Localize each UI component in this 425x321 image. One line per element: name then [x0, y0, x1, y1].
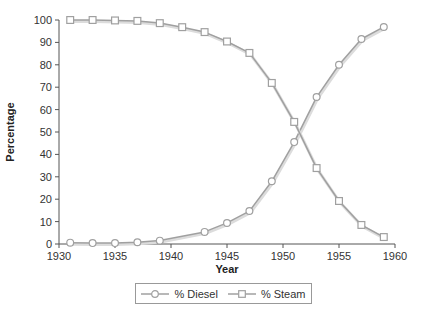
data-point [291, 119, 298, 126]
x-tick-label: 1950 [271, 250, 295, 262]
data-point [380, 24, 387, 31]
data-point [336, 61, 343, 68]
data-point [224, 220, 231, 227]
y-tick-label: 0 [46, 238, 52, 250]
data-point [156, 237, 163, 244]
y-tick-label: 10 [40, 216, 52, 228]
y-tick-label: 20 [40, 193, 52, 205]
data-point [291, 139, 298, 146]
series-diesel [67, 24, 387, 247]
y-tick-label: 80 [40, 59, 52, 71]
x-axis: 1930193519401945195019551960 [47, 244, 407, 262]
y-tick-label: 30 [40, 171, 52, 183]
data-point [89, 240, 96, 247]
y-tick-label: 90 [40, 36, 52, 48]
data-point [134, 17, 141, 24]
y-axis: 0102030405060708090100 [34, 14, 59, 250]
data-point [156, 20, 163, 27]
data-point [313, 94, 320, 101]
y-tick-label: 50 [40, 126, 52, 138]
series-steam [67, 17, 387, 241]
x-tick-label: 1955 [327, 250, 351, 262]
x-tick-label: 1960 [383, 250, 407, 262]
legend-item-steam: % Steam [228, 288, 306, 300]
data-point [67, 239, 74, 246]
data-point [313, 165, 320, 172]
data-point [112, 17, 119, 24]
data-point [224, 38, 231, 45]
data-point [112, 240, 119, 247]
data-point [268, 178, 275, 185]
x-tick-label: 1935 [103, 250, 127, 262]
data-point [336, 198, 343, 205]
data-point [201, 29, 208, 36]
x-tick-label: 1930 [47, 250, 71, 262]
data-point [201, 229, 208, 236]
data-point [380, 234, 387, 241]
data-point [268, 80, 275, 87]
x-axis-title: Year [215, 263, 239, 275]
data-point [179, 24, 186, 31]
square-marker-icon [228, 289, 256, 299]
x-tick-label: 1940 [159, 250, 183, 262]
data-point [358, 36, 365, 43]
legend: % Diesel % Steam [135, 283, 312, 304]
data-point [358, 222, 365, 229]
data-point [246, 50, 253, 57]
series-layer [67, 17, 387, 247]
legend-label-steam: % Steam [261, 288, 306, 300]
legend-label-diesel: % Diesel [174, 288, 217, 300]
x-tick-label: 1945 [215, 250, 239, 262]
y-tick-label: 40 [40, 148, 52, 160]
y-axis-title: Percentage [4, 102, 16, 161]
data-point [246, 208, 253, 215]
circle-marker-icon [141, 289, 169, 299]
data-point [67, 17, 74, 24]
legend-item-diesel: % Diesel [141, 288, 217, 300]
y-tick-label: 60 [40, 104, 52, 116]
data-point [134, 239, 141, 246]
line-chart: 0102030405060708090100 19301935194019451… [0, 0, 425, 321]
y-tick-label: 70 [40, 81, 52, 93]
y-tick-label: 100 [34, 14, 52, 26]
data-point [89, 17, 96, 24]
